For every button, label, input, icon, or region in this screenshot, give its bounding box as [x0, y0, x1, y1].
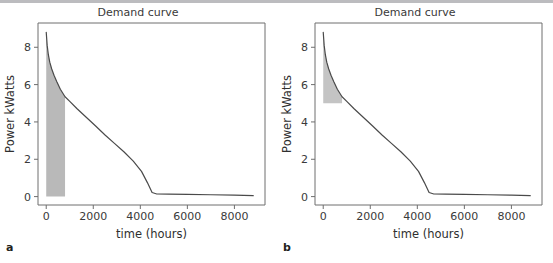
x-tick-label: 8000	[497, 210, 525, 223]
y-tick-label: 2	[24, 153, 31, 166]
axis-box	[38, 23, 265, 205]
x-tick-label: 6000	[450, 210, 478, 223]
demand-curve	[323, 32, 530, 195]
x-tick-label: 0	[320, 210, 327, 223]
demand-curve	[46, 32, 253, 195]
axis-spines	[315, 23, 542, 205]
y-tick-label: 0	[24, 191, 31, 204]
panel-b: Demand curve 0200040006000800002468time …	[277, 0, 553, 263]
x-axis-label: time (hours)	[393, 227, 464, 241]
y-tick-label: 6	[24, 79, 31, 92]
x-tick-label: 4000	[403, 210, 431, 223]
x-tick-label: 6000	[173, 210, 201, 223]
x-tick-label: 8000	[220, 210, 248, 223]
plot-area-b: 0200040006000800002468time (hours)Power …	[280, 23, 542, 241]
x-tick-label: 0	[43, 210, 50, 223]
panel-a: Demand curve 0200040006000800002468time …	[0, 0, 276, 263]
y-tick-label: 8	[24, 41, 31, 54]
y-tick-label: 4	[24, 116, 31, 129]
y-tick-label: 6	[301, 79, 308, 92]
x-tick-label: 2000	[356, 210, 384, 223]
y-axis-label: Power kWatts	[280, 75, 294, 153]
panel-label-a: a	[6, 241, 13, 254]
chart-a: 0200040006000800002468time (hours)Power …	[0, 0, 276, 263]
figure-container: Demand curve 0200040006000800002468time …	[0, 0, 553, 263]
y-tick-label: 0	[301, 191, 308, 204]
y-tick-label: 2	[301, 153, 308, 166]
axis-spines	[38, 23, 265, 205]
plot-area-a: 0200040006000800002468time (hours)Power …	[3, 23, 265, 241]
y-tick-label: 4	[301, 116, 308, 129]
x-tick-label: 4000	[126, 210, 154, 223]
x-axis-label: time (hours)	[116, 227, 187, 241]
panel-label-b: b	[283, 241, 291, 254]
axis-box	[315, 23, 542, 205]
chart-b: 0200040006000800002468time (hours)Power …	[277, 0, 553, 263]
y-tick-label: 8	[301, 41, 308, 54]
x-tick-label: 2000	[79, 210, 107, 223]
y-axis-label: Power kWatts	[3, 75, 17, 153]
